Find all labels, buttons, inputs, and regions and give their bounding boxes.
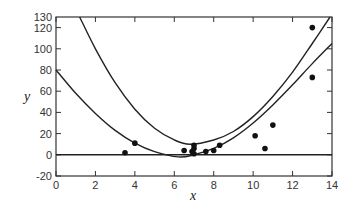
data-point xyxy=(211,148,217,154)
data-point xyxy=(217,142,223,148)
x-tick-label: 8 xyxy=(211,179,217,191)
data-point xyxy=(309,75,315,81)
data-point xyxy=(191,151,197,157)
axis-ticks: 02468101214-20020406080100120130 xyxy=(34,11,338,191)
x-tick-label: 14 xyxy=(326,179,338,191)
y-tick-label: 60 xyxy=(40,85,52,97)
data-point xyxy=(262,146,268,152)
y-tick-label: 80 xyxy=(40,64,52,76)
x-axis-label: x xyxy=(189,188,197,203)
data-point xyxy=(252,133,258,139)
y-axis-label: y xyxy=(22,89,31,104)
curves xyxy=(56,17,332,157)
y-tick-label: 120 xyxy=(34,22,52,34)
data-point xyxy=(181,148,187,154)
data-point xyxy=(309,25,315,31)
y-tick-label: -20 xyxy=(36,170,52,182)
scatter-chart: 02468101214-20020406080100120130 x y xyxy=(0,0,352,211)
x-tick-label: 2 xyxy=(92,179,98,191)
data-point xyxy=(270,122,276,128)
y-tick-label: 0 xyxy=(46,149,52,161)
y-tick-label: 20 xyxy=(40,128,52,140)
data-point xyxy=(122,150,128,156)
x-tick-label: 6 xyxy=(171,179,177,191)
data-point xyxy=(203,149,209,155)
y-tick-label: 40 xyxy=(40,106,52,118)
y-tick-label: 100 xyxy=(34,43,52,55)
x-tick-label: 0 xyxy=(53,179,59,191)
upper-curve xyxy=(80,17,330,144)
lower-curve xyxy=(56,44,332,158)
x-tick-label: 4 xyxy=(132,179,138,191)
y-tick-label: 130 xyxy=(34,11,52,23)
x-tick-label: 12 xyxy=(286,179,298,191)
x-tick-label: 10 xyxy=(247,179,259,191)
data-point xyxy=(132,140,138,146)
data-point xyxy=(191,142,197,148)
